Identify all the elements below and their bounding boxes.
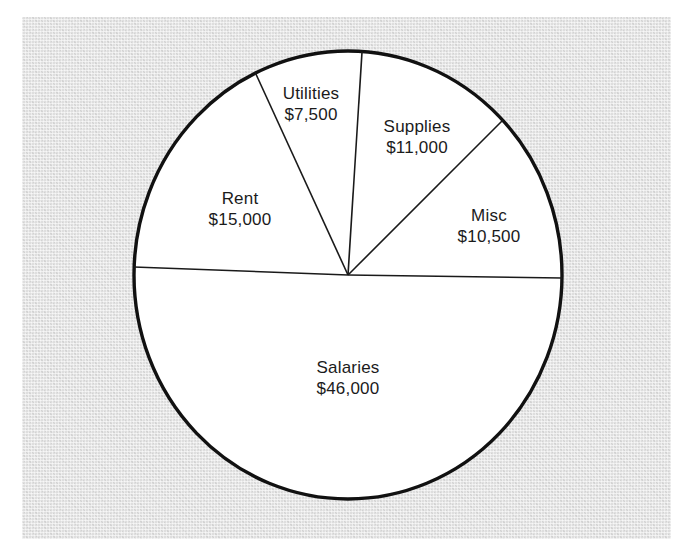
- slice-label-salaries: Salaries $46,000: [316, 357, 379, 399]
- pie-chart-figure: Salaries $46,000 Rent $15,000 Utilities …: [0, 0, 685, 553]
- slice-label-misc: Misc $10,500: [458, 205, 521, 247]
- slice-name-rent: Rent: [209, 188, 272, 209]
- slice-value-utilities: $7,500: [283, 104, 340, 125]
- slice-value-rent: $15,000: [209, 209, 272, 230]
- slice-label-supplies: Supplies $11,000: [384, 116, 451, 158]
- slice-name-utilities: Utilities: [283, 83, 340, 104]
- slice-name-supplies: Supplies: [384, 116, 451, 137]
- slice-label-rent: Rent $15,000: [209, 188, 272, 230]
- pie-chart-canvas: [0, 0, 685, 553]
- slice-name-misc: Misc: [458, 205, 521, 226]
- slice-value-supplies: $11,000: [384, 137, 451, 158]
- slice-label-utilities: Utilities $7,500: [283, 83, 340, 125]
- slice-name-salaries: Salaries: [316, 357, 379, 378]
- slice-value-salaries: $46,000: [316, 378, 379, 399]
- slice-value-misc: $10,500: [458, 226, 521, 247]
